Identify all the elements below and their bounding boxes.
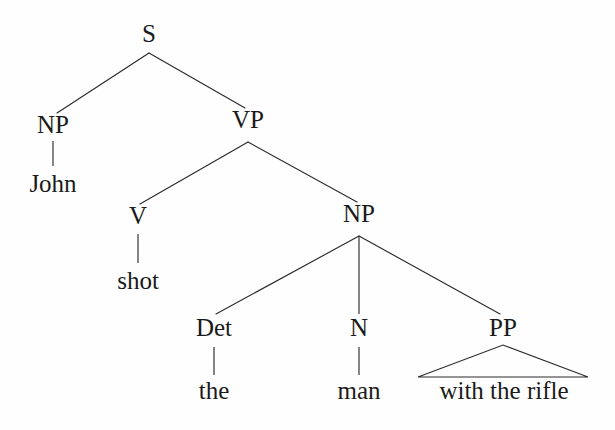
node-det: Det	[196, 314, 232, 341]
leaf-man: man	[337, 377, 381, 404]
syntax-tree-diagram: S NP VP John V NP shot Det N PP the man …	[0, 0, 615, 430]
leaf-john: John	[29, 170, 77, 197]
node-np-subject: NP	[37, 111, 69, 138]
leaf-shot: shot	[117, 267, 159, 294]
node-np-object: NP	[343, 200, 375, 227]
node-n: N	[350, 314, 368, 341]
leaf-the: the	[199, 377, 230, 404]
node-s: S	[142, 20, 156, 47]
diagram-background	[0, 0, 615, 430]
node-vp: VP	[232, 106, 264, 133]
node-pp: PP	[489, 314, 517, 341]
node-v: V	[129, 202, 147, 229]
leaf-with-the-rifle: with the rifle	[439, 377, 568, 404]
